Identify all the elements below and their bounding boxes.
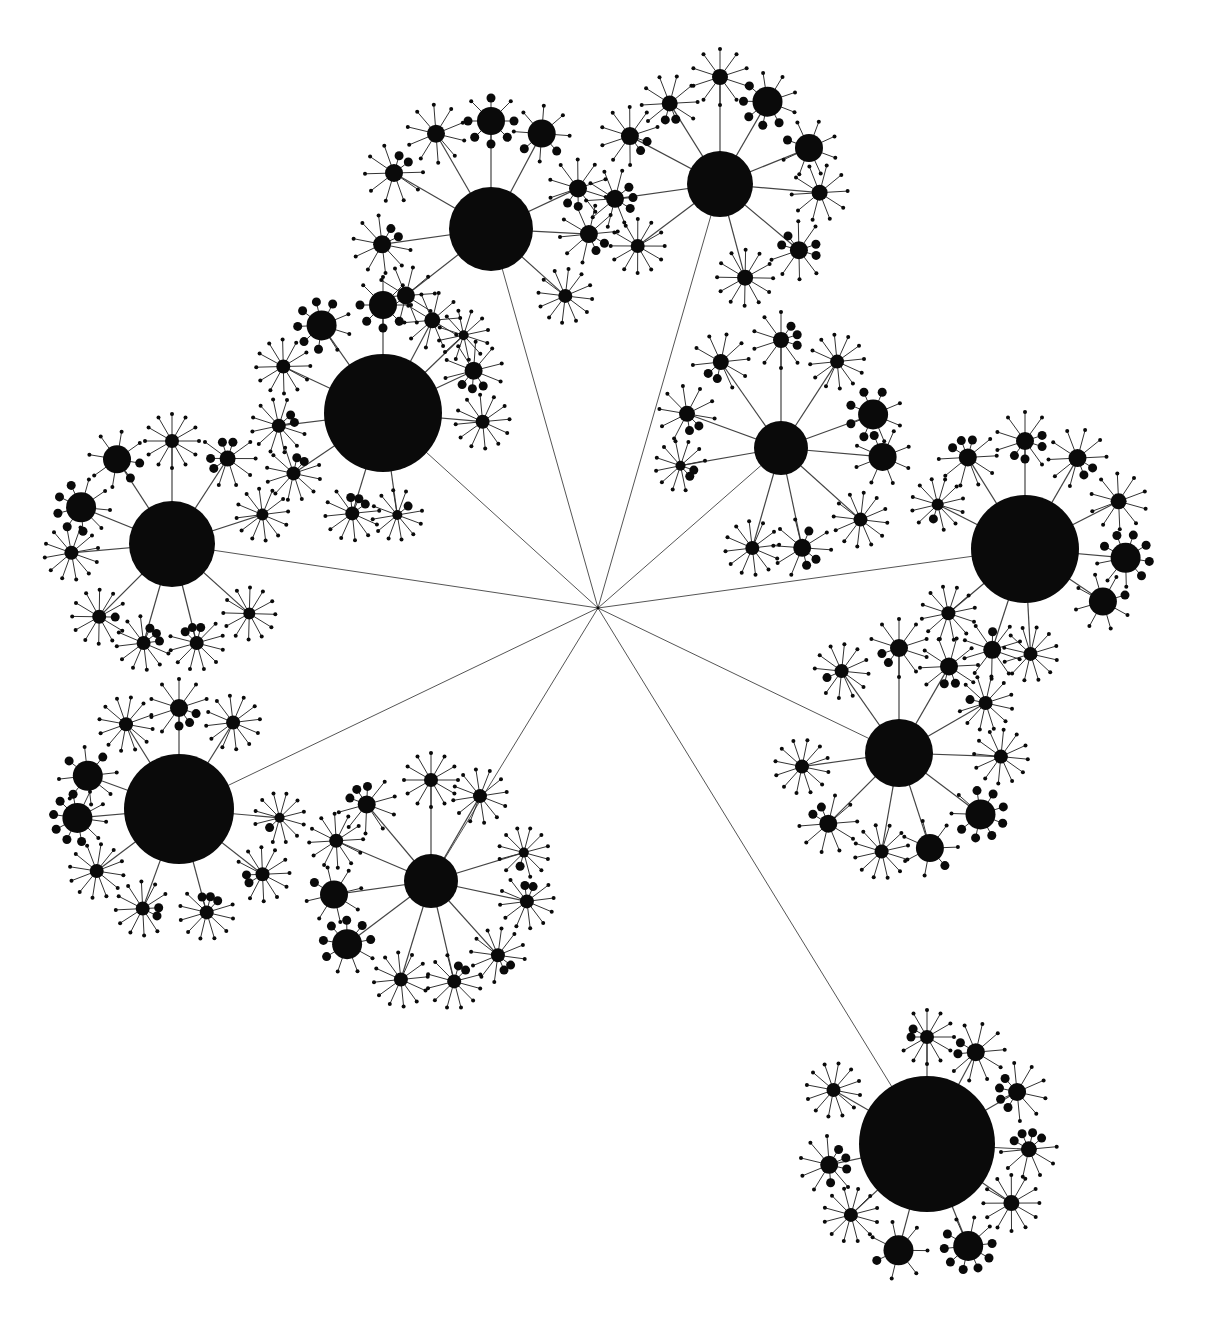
leaf-node — [691, 117, 695, 121]
leaf-node — [1048, 670, 1052, 674]
leaf-node — [797, 824, 801, 828]
leaf-node — [257, 442, 261, 446]
leaf-node — [735, 98, 739, 102]
leaf-node — [541, 921, 545, 925]
subhub-node — [1111, 493, 1127, 509]
leaf-node — [588, 283, 592, 287]
leaf-node — [286, 509, 290, 513]
leaf-node — [996, 1095, 1005, 1104]
leaf-node — [860, 371, 864, 375]
leaf-node — [793, 90, 797, 94]
leaf-node — [375, 523, 379, 527]
leaf-node — [776, 561, 780, 565]
leaf-node — [1015, 733, 1019, 737]
leaf-node — [283, 446, 287, 450]
leaf-node — [295, 444, 299, 448]
leaf-node — [95, 560, 99, 564]
leaf-node — [528, 875, 532, 879]
subhub-node — [920, 1030, 934, 1044]
leaf-node — [611, 111, 615, 115]
leaf-node — [537, 291, 541, 295]
leaf-node — [923, 874, 927, 878]
leaf-node — [853, 856, 857, 860]
leaf-node — [1010, 1229, 1014, 1233]
subhub-node — [459, 330, 469, 340]
subhub-node — [1016, 432, 1034, 450]
leaf-node — [496, 442, 500, 446]
leaf-node — [115, 771, 119, 775]
leaf-node — [812, 251, 821, 260]
leaf-node — [372, 504, 376, 508]
leaf-node — [485, 341, 489, 345]
leaf-node — [296, 798, 300, 802]
leaf-node — [948, 443, 957, 452]
leaf-node — [872, 875, 876, 879]
leaf-node — [606, 225, 610, 229]
leaf-node — [654, 469, 658, 473]
leaf-node — [337, 810, 341, 814]
leaf-node — [702, 98, 706, 102]
leaf-node — [488, 769, 492, 773]
leaf-node — [393, 795, 397, 799]
leaf-node — [957, 825, 966, 834]
leaf-node — [1042, 1078, 1046, 1082]
leaf-node — [1028, 1128, 1037, 1137]
leaf-node — [404, 502, 413, 511]
leaf-node — [772, 530, 776, 534]
leaf-node — [628, 163, 632, 167]
leaf-node — [909, 1025, 918, 1034]
leaf-node — [214, 660, 218, 664]
leaf-node — [400, 538, 404, 542]
leaf-node — [553, 269, 557, 273]
subhub-node — [569, 179, 587, 197]
leaf-node — [185, 892, 189, 896]
leaf-node — [116, 886, 120, 890]
subhub-node — [427, 125, 445, 143]
leaf-node — [892, 429, 896, 433]
leaf-node — [550, 910, 554, 914]
leaf-node — [276, 533, 280, 537]
subhub-node — [256, 509, 268, 521]
leaf-node — [362, 317, 371, 326]
leaf-node — [747, 357, 751, 361]
leaf-node — [745, 66, 749, 70]
leaf-node — [495, 815, 499, 819]
leaf-node — [319, 816, 323, 820]
leaf-node — [763, 361, 767, 365]
leaf-node — [411, 265, 415, 269]
leaf-node — [221, 634, 225, 638]
subhub-node — [424, 312, 440, 328]
leaf-node — [646, 119, 650, 123]
leaf-node — [874, 823, 878, 827]
leaf-node — [379, 494, 383, 498]
leaf-node — [1022, 678, 1026, 682]
leaf-node — [458, 380, 467, 389]
leaf-node — [361, 500, 370, 509]
leaf-node — [44, 542, 48, 546]
leaf-node — [118, 921, 122, 925]
leaf-node — [923, 649, 927, 653]
leaf-node — [426, 986, 430, 990]
leaf-node — [383, 956, 387, 960]
leaf-node — [771, 544, 775, 548]
leaf-node — [1003, 1048, 1007, 1052]
leaf-node — [839, 173, 843, 177]
leaf-node — [768, 262, 772, 266]
leaf-node — [649, 221, 653, 225]
leaf-node — [99, 435, 103, 439]
leaf-node — [479, 382, 488, 391]
leaf-node — [101, 802, 105, 806]
leaf-node — [358, 921, 367, 930]
leaf-node — [74, 852, 78, 856]
leaf-node — [777, 543, 781, 547]
leaf-node — [429, 751, 433, 755]
leaf-node — [842, 1187, 846, 1191]
leaf-node — [581, 260, 585, 264]
leaf-node — [848, 803, 852, 807]
subhub-node — [631, 239, 645, 253]
leaf-node — [871, 1235, 875, 1239]
leaf-node — [939, 1012, 943, 1016]
leaf-node — [1023, 1177, 1027, 1181]
leaf-node — [971, 833, 980, 842]
leaf-node — [770, 258, 774, 262]
